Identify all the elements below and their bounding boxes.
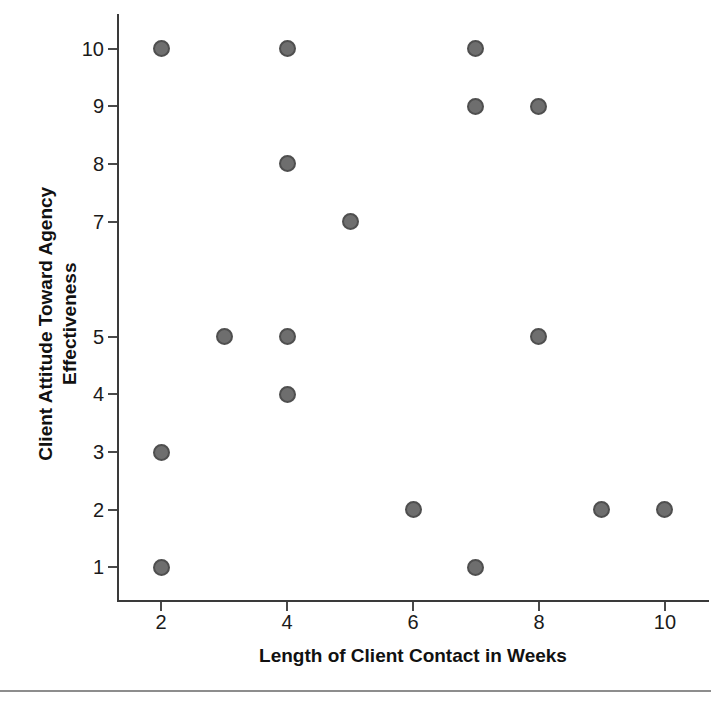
data-point — [153, 559, 170, 576]
x-tick-mark — [538, 602, 540, 611]
y-axis-title-line-1: Client Attitude Toward Agency — [34, 24, 58, 624]
y-tick-mark — [108, 566, 117, 568]
y-tick-mark — [108, 163, 117, 165]
data-point — [593, 501, 610, 518]
x-tick-label: 6 — [383, 612, 443, 632]
data-point — [656, 501, 673, 518]
x-tick-label: 2 — [131, 612, 191, 632]
x-axis-title: Length of Client Contact in Weeks — [117, 645, 709, 667]
x-tick-label: 10 — [635, 612, 695, 632]
y-tick-mark — [108, 221, 117, 223]
data-point — [279, 328, 296, 345]
data-points-layer — [117, 14, 709, 602]
x-tick-mark — [160, 602, 162, 611]
x-tick-mark — [664, 602, 666, 611]
data-point — [216, 328, 233, 345]
y-tick-mark — [108, 105, 117, 107]
data-point — [279, 155, 296, 172]
data-point — [279, 386, 296, 403]
bottom-divider-rule — [0, 690, 711, 692]
y-tick-mark — [108, 393, 117, 395]
y-tick-mark — [108, 509, 117, 511]
data-point — [279, 40, 296, 57]
data-point — [153, 40, 170, 57]
data-point — [405, 501, 422, 518]
y-tick-mark — [108, 451, 117, 453]
data-point — [342, 213, 359, 230]
data-point — [467, 98, 484, 115]
y-axis-title: Client Attitude Toward Agency Effectiven… — [34, 24, 82, 624]
scatter-plot-figure: 1234578910 246810 Length of Client Conta… — [0, 0, 711, 708]
y-axis-title-line-2: Effectiveness — [58, 24, 82, 624]
x-tick-mark — [286, 602, 288, 611]
x-tick-label: 8 — [509, 612, 569, 632]
x-tick-label: 4 — [257, 612, 317, 632]
x-tick-mark — [412, 602, 414, 611]
y-tick-mark — [108, 48, 117, 50]
data-point — [530, 328, 547, 345]
data-point — [467, 559, 484, 576]
data-point — [467, 40, 484, 57]
data-point — [530, 98, 547, 115]
data-point — [153, 444, 170, 461]
y-tick-mark — [108, 336, 117, 338]
